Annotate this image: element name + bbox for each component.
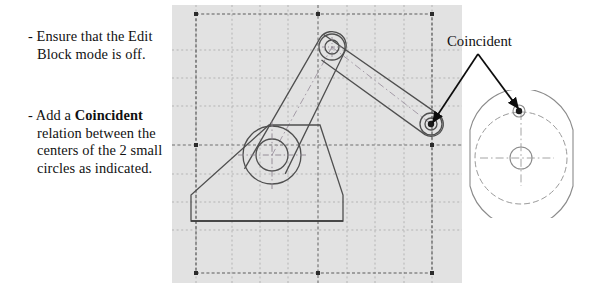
selection-boundary[interactable] [194,12,434,275]
bullet-text-1: Ensure that the Edit Block mode is off. [37,28,153,62]
figure-root: - Ensure that the Edit Block mode is off… [0,0,598,296]
selection-rect[interactable] [196,14,432,273]
cad-sketch-svg [172,5,462,283]
instruction-bullet-1: - Ensure that the Edit Block mode is off… [28,28,168,63]
instruction-bullet-2: - Add a Coincident relation between the … [28,107,168,177]
lower-hub-centerlines [238,121,306,189]
instructions-block: - Ensure that the Edit Block mode is off… [28,28,168,178]
bullet-text-2-prefix: Add a [36,107,75,123]
right-pivot[interactable] [420,113,442,135]
handle-bottom-right[interactable] [430,271,434,275]
handle-bottom-center[interactable] [316,271,320,275]
handle-mid-right[interactable] [430,143,434,147]
detail-view-svg [462,90,598,218]
bullet-dash-1: - [28,28,33,44]
handle-top-left[interactable] [194,12,198,16]
inner-dashed-circle[interactable] [475,112,567,204]
small-top-circle-center-point[interactable] [516,108,522,114]
sketch-origin-axes [172,5,462,283]
bullet-text-2-emphasis: Coincident [75,107,143,123]
bullet-text-2-suffix: relation between the centers of the 2 sm… [37,125,162,176]
selection-handles[interactable] [194,12,434,275]
handle-top-right[interactable] [430,12,434,16]
top-pivot[interactable] [319,34,345,60]
handle-top-center[interactable] [316,12,320,16]
handle-mid-left[interactable] [194,143,198,147]
detail-view[interactable] [462,90,598,218]
lower-hub[interactable] [238,121,306,189]
sketch-grid [172,5,462,283]
handle-bottom-left[interactable] [194,271,198,275]
cad-sketch-panel[interactable] [172,5,462,283]
right-pivot-center-point[interactable] [428,121,434,127]
bullet-dash-2: - [28,107,33,123]
small-top-circle[interactable] [513,105,525,117]
